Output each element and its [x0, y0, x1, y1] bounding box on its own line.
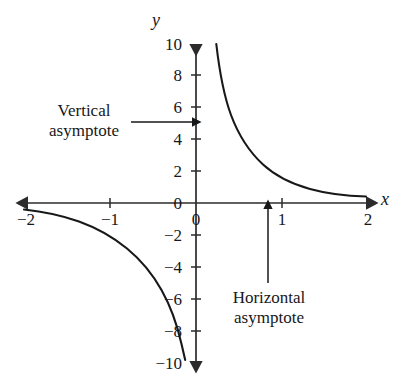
horizontal-asymptote-label-line2: asymptote: [213, 308, 325, 328]
horizontal-asymptote-label: Horizontal asymptote: [213, 288, 325, 328]
y-tick-label--8: −8: [140, 323, 182, 340]
y-tick-label--4: −4: [140, 259, 182, 276]
y-tick-label--2: −2: [140, 227, 182, 244]
y-tick-label-8: 8: [140, 67, 182, 84]
y-tick-label--10: −10: [140, 355, 182, 372]
vertical-asymptote-label-line1: Vertical: [35, 101, 133, 121]
vertical-asymptote-label: Vertical asymptote: [35, 101, 133, 141]
vertical-asymptote-label-line2: asymptote: [35, 121, 133, 141]
y-axis-label: y: [152, 11, 160, 29]
y-tick-label--6: −6: [140, 291, 182, 308]
graph-canvas: [0, 0, 410, 383]
x-tick-label-1: 1: [269, 211, 295, 228]
rational-function-figure: y x 10 8 6 4 2 0 −2 −4 −6 −8 −10 −2 −1 0…: [0, 0, 410, 383]
x-origin-label: 0: [183, 211, 209, 228]
y-tick-label-2: 2: [140, 163, 182, 180]
curve-right-branch: [216, 44, 366, 197]
y-tick-label-4: 4: [140, 131, 182, 148]
x-tick-label--2: −2: [9, 211, 43, 228]
y-tick-label-0: 0: [140, 195, 182, 212]
x-tick-label--1: −1: [93, 211, 127, 228]
y-tick-label-10: 10: [140, 36, 182, 53]
x-axis-label: x: [381, 190, 389, 208]
x-tick-label-2: 2: [355, 211, 381, 228]
horizontal-asymptote-label-line1: Horizontal: [213, 288, 325, 308]
y-tick-label-6: 6: [140, 99, 182, 116]
